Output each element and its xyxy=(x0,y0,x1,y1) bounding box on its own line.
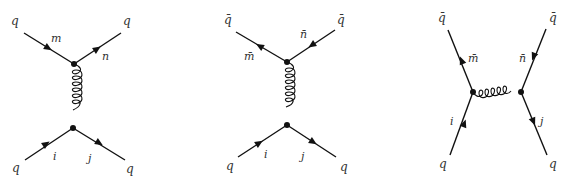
particle-label-bottom-left: q xyxy=(439,157,447,171)
color-index-m: m xyxy=(51,32,61,45)
particle-label-top-left: q̄ xyxy=(224,13,232,27)
arrow-icon xyxy=(529,117,539,127)
particle-label-bottom-right: q xyxy=(126,162,134,176)
color-index-j: j xyxy=(85,152,92,165)
color-index-i: i xyxy=(264,148,268,161)
particle-label-top-right: q̄ xyxy=(549,11,557,25)
diagram-qqbar-t-channel: q̄ q̄ q q m̄ n̄ i j xyxy=(224,13,348,174)
color-index-i: i xyxy=(53,150,57,163)
particle-label-top-right: q xyxy=(123,14,131,28)
arrow-icon xyxy=(254,41,264,51)
vertex-dot xyxy=(470,89,476,95)
particle-label-top-left: q xyxy=(11,14,19,28)
color-index-i: i xyxy=(450,115,454,128)
particle-label-bottom-left: q xyxy=(226,159,234,173)
color-index-n: n̄ xyxy=(300,28,307,41)
fermion-line-bottom-left xyxy=(238,125,287,157)
vertex-dot xyxy=(284,59,290,65)
vertex-dot xyxy=(71,61,77,67)
gluon-propagator xyxy=(285,62,295,107)
particle-label-bottom-left: q xyxy=(12,161,20,175)
vertex-dot xyxy=(70,125,76,131)
fermion-line-bottom-left xyxy=(25,128,73,160)
gluon-propagator xyxy=(72,64,82,110)
arrow-icon xyxy=(254,138,265,148)
diagram-qq-t-channel: q q q q m n i j xyxy=(11,14,134,176)
color-index-j: j xyxy=(537,115,544,128)
vertex-dot xyxy=(518,89,524,95)
color-index-n: n xyxy=(102,50,109,63)
particle-label-top-right: q̄ xyxy=(337,13,345,27)
color-index-m: m̄ xyxy=(468,52,478,65)
color-index-n: n̄ xyxy=(519,52,526,65)
diagram-qqbar-s-channel: q̄ q̄ q q m̄ n̄ i j xyxy=(438,11,557,171)
particle-label-top-left: q̄ xyxy=(438,11,446,25)
gluon-propagator xyxy=(473,86,511,98)
vertex-dot xyxy=(284,122,290,128)
particle-label-bottom-right: q xyxy=(340,160,348,174)
color-index-j: j xyxy=(298,150,305,163)
particle-label-bottom-right: q xyxy=(549,157,557,171)
arrow-icon xyxy=(308,137,319,147)
feynman-diagrams: q q q q m n i j q̄ q̄ q q m̄ n̄ i j xyxy=(0,0,574,183)
color-index-m: m̄ xyxy=(244,50,254,63)
